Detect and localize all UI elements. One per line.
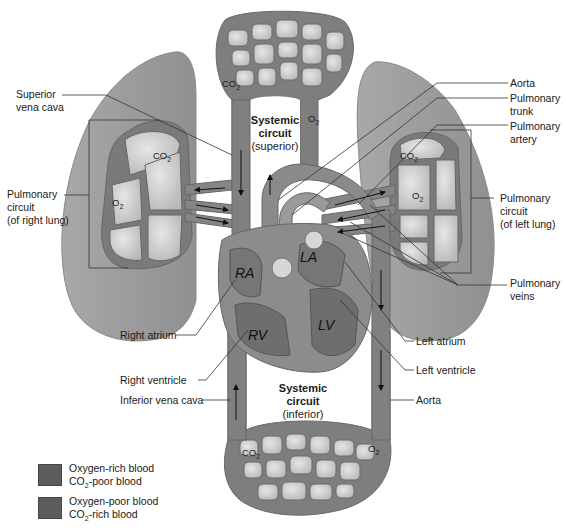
label-right-atrium: Right atrium — [120, 329, 177, 342]
legend-oxygen-poor: Oxygen-poor blood CO2-rich blood — [38, 495, 158, 525]
label-line: artery — [510, 133, 560, 146]
lv-annotation: LV — [318, 317, 336, 333]
label-aorta-bottom: Aorta — [416, 394, 441, 407]
label-line: trunk — [510, 105, 560, 118]
o2-right-lung: O2 — [112, 197, 123, 210]
label-line: circuit — [7, 201, 69, 214]
o2-superior: O2 — [308, 113, 319, 126]
legend-text: Oxygen-poor blood CO2-rich blood — [69, 495, 158, 525]
label-line: (superior) — [251, 140, 298, 152]
o2-inferior: O2 — [368, 443, 379, 456]
label-line: (of right lung) — [7, 214, 69, 227]
co2-inferior: CO2 — [242, 447, 260, 460]
co2-left-lung: CO2 — [400, 150, 418, 163]
label-inferior-vena-cava: Inferior vena cava — [120, 394, 203, 407]
label-aorta-top: Aorta — [510, 77, 535, 90]
label-line: (inferior) — [283, 408, 324, 420]
ra-annotation: RA — [235, 265, 254, 281]
label-pulmonary-circuit-right: Pulmonary circuit (of right lung) — [7, 188, 69, 227]
label-line: (of left lung) — [500, 218, 555, 231]
circulation-diagram: RA LA RV LV — [0, 0, 566, 530]
label-systemic-inferior: Systemic circuit (inferior) — [268, 382, 338, 421]
label-line: Superior — [16, 88, 64, 101]
label-right-ventricle: Right ventricle — [120, 374, 187, 387]
label-line: Pulmonary — [500, 192, 555, 205]
legend-oxygen-rich: Oxygen-rich blood CO2-poor blood — [38, 462, 154, 492]
label-pulmonary-veins: Pulmonary veins — [510, 277, 560, 303]
legend-swatch-oxygen-poor — [38, 497, 62, 519]
label-line: Systemic — [240, 114, 310, 127]
label-left-ventricle: Left ventricle — [416, 364, 476, 377]
label-line: Pulmonary — [7, 188, 69, 201]
rv-annotation: RV — [248, 327, 269, 343]
legend-line: CO2-rich blood — [69, 508, 158, 526]
label-line: circuit — [268, 395, 338, 408]
label-superior-vena-cava: Superior vena cava — [16, 88, 64, 114]
label-pulmonary-artery: Pulmonary artery — [510, 120, 560, 146]
label-line: veins — [510, 290, 560, 303]
label-line: Pulmonary — [510, 277, 560, 290]
legend-line: Oxygen-rich blood — [69, 462, 154, 475]
o2-left-lung: O2 — [412, 190, 423, 203]
legend-line: CO2-poor blood — [69, 475, 154, 493]
label-line: Pulmonary — [510, 92, 560, 105]
label-pulmonary-trunk: Pulmonary trunk — [510, 92, 560, 118]
label-line: Systemic — [268, 382, 338, 395]
co2-superior: CO2 — [222, 78, 240, 91]
label-line: vena cava — [16, 101, 64, 114]
co2-right-lung: CO2 — [153, 150, 171, 163]
label-line: Pulmonary — [510, 120, 560, 133]
label-left-atrium: Left atrium — [416, 335, 466, 348]
label-systemic-superior: Systemic circuit (superior) — [240, 114, 310, 153]
right-lung-capillaries — [102, 121, 192, 269]
label-line: circuit — [240, 127, 310, 140]
legend-text: Oxygen-rich blood CO2-poor blood — [69, 462, 154, 492]
legend-line: Oxygen-poor blood — [69, 495, 158, 508]
la-annotation: LA — [300, 249, 317, 265]
descending-aorta — [372, 210, 390, 440]
label-pulmonary-circuit-left: Pulmonary circuit (of left lung) — [500, 192, 555, 231]
legend-swatch-oxygen-rich — [38, 464, 62, 486]
label-line: circuit — [500, 205, 555, 218]
